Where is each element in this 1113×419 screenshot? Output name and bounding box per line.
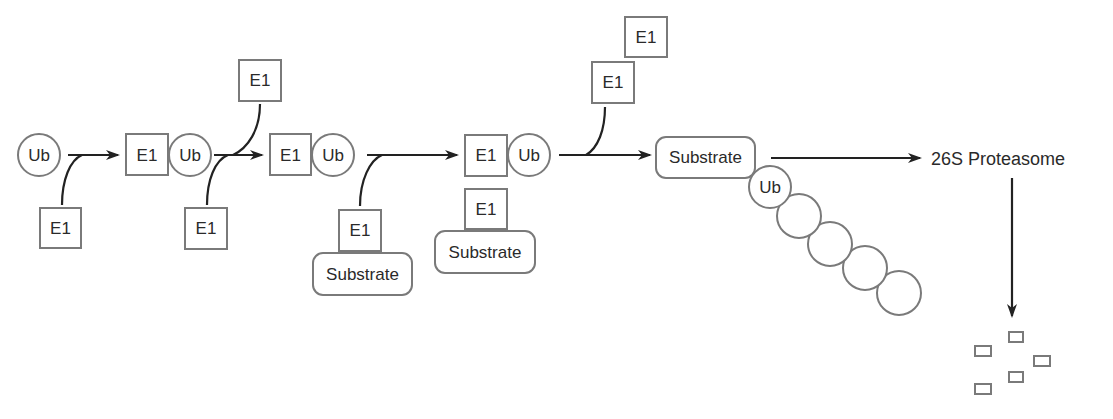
e1-release-curve-2	[233, 104, 260, 155]
ub-node-1: Ub	[18, 134, 60, 176]
e1-node-incoming-3: E1	[339, 210, 381, 251]
e1-node-incoming-2: E1	[185, 208, 227, 249]
e1-join-curve-1	[62, 155, 82, 205]
e1-node-4: E1	[465, 135, 507, 176]
svg-text:E1: E1	[250, 71, 271, 90]
ubiquitination-pathway-diagram: Ub E1 E1 Ub E1 E1 E1 Ub E1 Substrate	[0, 0, 1113, 419]
e1-node-outgoing-4a: E1	[592, 62, 634, 103]
substrate-node-incoming-3: Substrate	[313, 253, 412, 295]
ub-node-2: Ub	[169, 134, 211, 176]
svg-text:Ub: Ub	[28, 146, 50, 165]
peptide-fragments	[975, 332, 1050, 394]
e1-node-outgoing-4b: E1	[625, 17, 667, 57]
polyubiquitin-chain	[777, 194, 921, 315]
svg-text:E1: E1	[476, 200, 497, 219]
ub-node-4: Ub	[508, 134, 550, 176]
e1-node-2: E1	[126, 134, 168, 175]
svg-text:E1: E1	[196, 219, 217, 238]
substrate-node-5: Substrate	[656, 137, 755, 178]
svg-text:E1: E1	[603, 73, 624, 92]
svg-text:E1: E1	[280, 146, 301, 165]
e1-node-incoming-1: E1	[40, 208, 81, 248]
svg-text:E1: E1	[476, 146, 497, 165]
e1-node-below-4: E1	[465, 189, 507, 229]
svg-text:E1: E1	[137, 146, 158, 165]
substrate-node-below-4: Substrate	[435, 231, 535, 273]
proteasome-label: 26S Proteasome	[931, 149, 1065, 169]
svg-text:Substrate: Substrate	[669, 148, 742, 167]
substrate-join-curve-3	[360, 155, 382, 206]
svg-text:Substrate: Substrate	[449, 243, 522, 262]
ub-node-3: Ub	[312, 134, 354, 176]
e1-release-curve-4	[586, 107, 605, 155]
svg-text:Ub: Ub	[518, 146, 540, 165]
e1-node-outgoing-2: E1	[239, 60, 281, 101]
svg-text:Ub: Ub	[322, 146, 344, 165]
ub-node-5: Ub	[749, 166, 791, 208]
e1-node-3: E1	[270, 134, 311, 175]
svg-text:Ub: Ub	[759, 178, 781, 197]
svg-text:E1: E1	[50, 219, 71, 238]
svg-text:E1: E1	[350, 221, 371, 240]
svg-text:Ub: Ub	[179, 146, 201, 165]
svg-text:E1: E1	[636, 28, 657, 47]
svg-text:Substrate: Substrate	[326, 265, 399, 284]
